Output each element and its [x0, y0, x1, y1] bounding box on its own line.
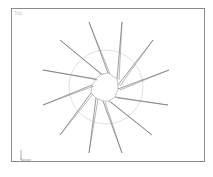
axis-gizmo-icon [20, 150, 31, 161]
grid-circle [69, 50, 143, 124]
spike [115, 70, 169, 97]
spike [109, 97, 168, 105]
scene-canvas[interactable] [0, 0, 213, 177]
star-shape[interactable] [43, 22, 169, 153]
spike [118, 40, 153, 89]
spike [96, 98, 122, 153]
